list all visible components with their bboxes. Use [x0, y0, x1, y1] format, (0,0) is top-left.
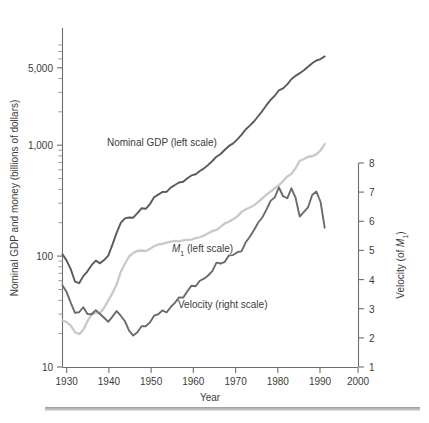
series-label-m1-post: (left scale): [184, 243, 233, 254]
left-tick-label-10: 10: [42, 362, 54, 373]
bottom-axis-title: Year: [200, 392, 221, 403]
series-paths-group: [63, 56, 325, 335]
right-tick-label-1: 1: [369, 362, 375, 373]
left-tick-label-100: 100: [36, 251, 53, 262]
right-tick-label-5: 5: [369, 245, 375, 256]
series-label-velocity: Velocity (right scale): [178, 299, 267, 310]
right-tick-label-2: 2: [369, 333, 375, 344]
series-annotations-group: Nominal GDP (left scale) M1 (left scale)…: [107, 137, 267, 310]
right-axis-group: 1 2 3 4 5 6 7 8 Velocity (of M1): [359, 158, 409, 373]
bottom-axis-group: 1930 1940 1950 1960 1970 1980 1990 2000 …: [56, 368, 370, 404]
series-label-m1: M1 (left scale): [172, 243, 233, 257]
right-tick-label-8: 8: [369, 158, 375, 169]
x-tick-label-1970: 1970: [224, 376, 247, 387]
left-tick-label-5000: 5,000: [28, 63, 53, 74]
x-tick-label-1950: 1950: [140, 376, 163, 387]
right-axis-title-pre: Velocity (of: [395, 247, 406, 299]
x-tick-label-2000: 2000: [347, 376, 370, 387]
x-tick-label-1930: 1930: [56, 376, 79, 387]
right-tick-label-6: 6: [369, 216, 375, 227]
x-tick-label-1960: 1960: [182, 376, 205, 387]
x-tick-label-1990: 1990: [309, 376, 332, 387]
x-tick-label-1980: 1980: [267, 376, 290, 387]
chart-figure: 10 100 1,000 5,000 Nominal GDP and money…: [0, 0, 429, 423]
series-label-gdp: Nominal GDP (left scale): [107, 137, 217, 148]
right-tick-label-3: 3: [369, 304, 375, 315]
x-tick-label-1940: 1940: [98, 376, 121, 387]
line-chart-svg: 10 100 1,000 5,000 Nominal GDP and money…: [0, 0, 429, 423]
bottom-divider-rule: [45, 407, 420, 411]
left-tick-label-1000: 1,000: [28, 140, 53, 151]
right-axis-title: Velocity (of M1): [395, 231, 409, 298]
left-axis-group: 10 100 1,000 5,000 Nominal GDP and money…: [9, 28, 63, 373]
right-axis-title-post: ): [395, 231, 406, 234]
right-tick-label-7: 7: [369, 187, 375, 198]
left-axis-title: Nominal GDP and money (billions of dolla…: [9, 100, 20, 297]
right-tick-label-4: 4: [369, 275, 375, 286]
